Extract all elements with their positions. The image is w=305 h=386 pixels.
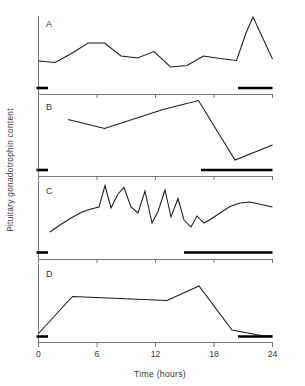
multi-panel-line-chart: A B bbox=[0, 0, 305, 386]
panel-d: D bbox=[37, 264, 274, 347]
panel-b-trace bbox=[68, 101, 273, 161]
x-tick-label-6: 6 bbox=[95, 349, 100, 359]
panel-d-trace bbox=[39, 286, 273, 336]
x-axis-title: Time (hours) bbox=[134, 369, 186, 379]
x-tick-label-0: 0 bbox=[36, 349, 41, 359]
panel-d-x-ticks bbox=[39, 343, 273, 348]
panel-a-letter: A bbox=[46, 19, 52, 29]
panel-c-trace bbox=[50, 186, 273, 233]
x-tick-label-12: 12 bbox=[151, 349, 161, 359]
panel-b-letter: B bbox=[46, 102, 52, 112]
panel-c: C bbox=[37, 181, 274, 263]
x-tick-label-18: 18 bbox=[209, 349, 219, 359]
panel-a-trace bbox=[39, 17, 273, 67]
panel-c-x-ticks bbox=[39, 260, 273, 264]
x-axis-tick-labels: 0 6 12 18 24 bbox=[36, 349, 277, 359]
panel-b: B bbox=[37, 98, 274, 180]
panel-d-letter: D bbox=[46, 269, 53, 279]
figure-container: Pituitary gonadotrophin content A bbox=[0, 0, 305, 386]
x-tick-label-24: 24 bbox=[268, 349, 278, 359]
panel-a-x-ticks bbox=[39, 95, 273, 99]
panel-b-x-ticks bbox=[39, 177, 273, 181]
panel-c-letter: C bbox=[46, 186, 53, 196]
panel-a: A bbox=[37, 16, 274, 98]
